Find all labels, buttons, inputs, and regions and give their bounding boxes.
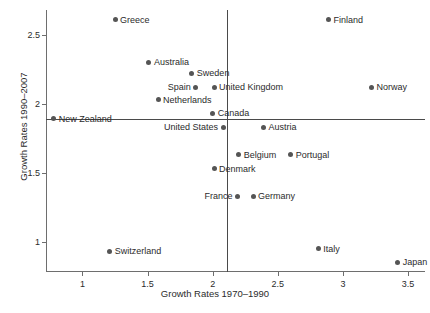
data-point-label: Italy [323, 244, 340, 254]
data-point[interactable] [221, 125, 226, 130]
y-tick-mark [42, 242, 46, 243]
y-tick-label: 2.5 [27, 30, 40, 40]
data-point-label: United Kingdom [219, 82, 283, 92]
y-tick-mark [42, 35, 46, 36]
x-tick-mark [278, 272, 279, 276]
data-point-label: Greece [120, 15, 150, 25]
data-point[interactable] [235, 194, 240, 199]
scatter-plot-figure: 11.522.5 11.522.533.5 GreeceFinlandAustr… [0, 0, 430, 313]
data-point[interactable] [113, 17, 118, 22]
data-point-label: Australia [154, 57, 189, 67]
data-point-label: Spain [168, 82, 191, 92]
data-point-label: Austria [269, 122, 297, 132]
data-point[interactable] [212, 85, 217, 90]
y-tick-label: 1 [35, 237, 40, 247]
y-axis-spine [46, 10, 47, 272]
data-point-label: Belgium [244, 150, 277, 160]
x-tick-mark [408, 272, 409, 276]
data-point-label: France [204, 191, 232, 201]
data-point-label: Switzerland [115, 246, 162, 256]
data-point-label: Japan [403, 257, 428, 267]
y-tick-label: 1.5 [27, 168, 40, 178]
data-point[interactable] [189, 71, 194, 76]
data-point-label: Denmark [219, 164, 256, 174]
data-point-label: Finland [334, 15, 364, 25]
x-tick-mark [213, 272, 214, 276]
data-point[interactable] [395, 260, 400, 265]
data-point-label: Sweden [197, 68, 230, 78]
x-tick-mark [343, 272, 344, 276]
data-point-label: Netherlands [163, 95, 212, 105]
data-point[interactable] [193, 85, 198, 90]
y-tick-mark [42, 104, 46, 105]
data-point[interactable] [107, 249, 112, 254]
y-axis-title: Growth Rates 1990–2007 [18, 0, 29, 258]
data-point-label: Portugal [296, 150, 330, 160]
data-point[interactable] [51, 116, 56, 121]
data-point-label: Norway [377, 82, 408, 92]
x-axis-spine [46, 271, 425, 272]
data-point-label: Canada [218, 108, 250, 118]
data-point[interactable] [212, 166, 217, 171]
data-point[interactable] [369, 85, 374, 90]
y-tick-mark [42, 173, 46, 174]
plot-area: 11.522.5 11.522.533.5 GreeceFinlandAustr… [46, 10, 425, 272]
x-axis-title: Growth Rates 1970–1990 [0, 288, 430, 299]
data-point[interactable] [261, 125, 266, 130]
x-tick-mark [82, 272, 83, 276]
data-point[interactable] [288, 152, 293, 157]
data-point-label: Germany [258, 191, 295, 201]
data-point-label: New Zealand [59, 114, 112, 124]
data-point[interactable] [210, 111, 215, 116]
data-point[interactable] [146, 60, 151, 65]
data-point[interactable] [316, 246, 321, 251]
data-point[interactable] [156, 97, 161, 102]
y-tick-label: 2 [35, 99, 40, 109]
data-point[interactable] [251, 194, 256, 199]
data-point-label: United States [164, 122, 218, 132]
data-point[interactable] [236, 152, 241, 157]
vertical-reference-line [227, 10, 228, 272]
x-tick-mark [148, 272, 149, 276]
data-point[interactable] [326, 17, 331, 22]
